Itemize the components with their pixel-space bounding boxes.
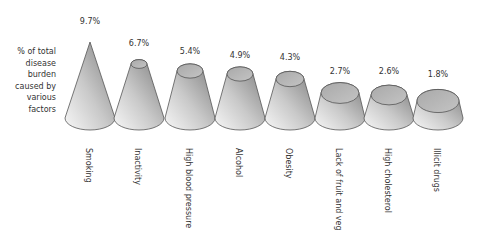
cone-chart bbox=[0, 0, 480, 234]
value-label-alcohol: 4.9% bbox=[220, 51, 260, 60]
cone-alcohol bbox=[215, 67, 265, 130]
y-axis-label-line: caused by bbox=[4, 81, 56, 93]
cone-inactivity bbox=[114, 60, 164, 130]
cones-layer bbox=[65, 42, 463, 130]
cone-obesity bbox=[265, 71, 315, 130]
value-label-smoking: 9.7% bbox=[70, 17, 110, 26]
y-axis-label: % of total disease burden caused by vari… bbox=[4, 46, 56, 115]
y-axis-label-line: various bbox=[4, 92, 56, 104]
category-label-alcohol: Alcohol bbox=[234, 148, 243, 177]
category-label-lack-of-fruit-and-veg: Lack of fruit and veg bbox=[334, 148, 343, 231]
y-axis-label-line: % of total bbox=[4, 46, 56, 58]
category-label-obesity: Obesity bbox=[284, 148, 293, 179]
cone-high-blood-pressure bbox=[165, 64, 215, 130]
value-label-obesity: 4.3% bbox=[270, 53, 310, 62]
category-label-high-cholesterol: High cholesterol bbox=[383, 148, 392, 213]
y-axis-label-line: disease bbox=[4, 58, 56, 70]
category-label-high-blood-pressure: High blood pressure bbox=[184, 148, 193, 228]
category-label-smoking: Smoking bbox=[84, 148, 93, 183]
category-label-illicit-drugs: Illicit drugs bbox=[432, 148, 441, 192]
value-label-high-blood-pressure: 5.4% bbox=[170, 47, 210, 56]
cone-lack-of-fruit-and-veg bbox=[315, 83, 365, 130]
cone-high-cholesterol bbox=[364, 85, 414, 130]
y-axis-label-line: burden bbox=[4, 69, 56, 81]
value-label-lack-of-fruit-and-veg: 2.7% bbox=[320, 67, 360, 76]
cone-smoking bbox=[65, 42, 115, 130]
value-label-inactivity: 6.7% bbox=[119, 39, 159, 48]
cone-illicit-drugs bbox=[413, 89, 463, 130]
value-label-illicit-drugs: 1.8% bbox=[418, 70, 458, 79]
value-label-high-cholesterol: 2.6% bbox=[369, 67, 409, 76]
category-label-inactivity: Inactivity bbox=[133, 148, 142, 185]
y-axis-label-line: factors bbox=[4, 104, 56, 116]
